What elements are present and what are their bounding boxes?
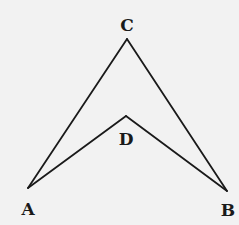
segment-ad	[28, 116, 126, 188]
segment-cb	[127, 39, 227, 191]
vertex-label-a: A	[21, 201, 34, 218]
segment-db	[126, 116, 227, 191]
vertex-label-c: C	[120, 17, 134, 34]
segment-ac	[28, 39, 127, 188]
vertex-label-d: D	[119, 131, 134, 148]
vertex-label-b: B	[221, 202, 235, 219]
diagram-canvas: C D A B	[0, 0, 239, 225]
